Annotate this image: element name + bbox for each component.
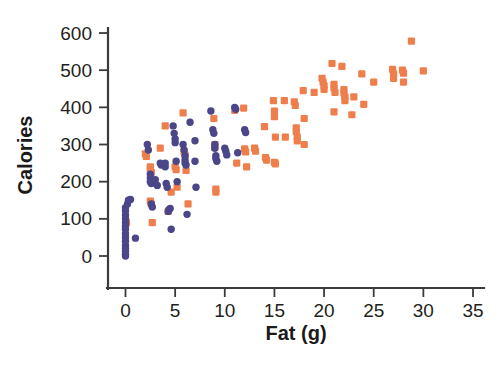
y-tick-label-200: 200: [60, 171, 92, 192]
x-tick-label-30: 30: [413, 300, 434, 321]
data-point-circle: [234, 149, 241, 156]
data-point-square: [320, 86, 327, 93]
data-point-square: [179, 109, 186, 116]
data-point-circle: [191, 158, 198, 165]
data-point-circle: [166, 205, 173, 212]
data-point-square: [281, 97, 288, 104]
data-point-circle: [154, 182, 161, 189]
x-tick-label-35: 35: [462, 300, 483, 321]
data-point-circle: [172, 158, 179, 165]
data-point-circle: [192, 184, 199, 191]
data-point-square: [212, 188, 219, 195]
data-point-square: [328, 60, 335, 67]
x-tick-label-10: 10: [214, 300, 235, 321]
data-point-square: [272, 133, 279, 140]
data-point-square: [370, 78, 377, 85]
data-point-circle: [132, 234, 139, 241]
data-point-square: [408, 38, 415, 45]
data-point-square: [184, 200, 191, 207]
data-point-circle: [127, 196, 134, 203]
y-tick-label-500: 500: [60, 60, 92, 81]
x-tick-label-0: 0: [120, 300, 131, 321]
data-point-square: [301, 141, 308, 148]
data-point-square: [341, 97, 348, 104]
y-tick-label-400: 400: [60, 97, 92, 118]
x-tick-label-15: 15: [264, 300, 285, 321]
data-point-square: [157, 145, 164, 152]
data-point-circle: [210, 130, 217, 137]
data-point-circle: [182, 161, 189, 168]
x-axis-title: Fat (g): [265, 322, 326, 344]
data-point-circle: [207, 107, 214, 114]
data-point-square: [300, 87, 307, 94]
data-point-square: [242, 148, 249, 155]
data-point-square: [270, 97, 277, 104]
data-point-square: [210, 115, 217, 122]
data-point-square: [149, 219, 156, 226]
data-point-square: [390, 75, 397, 82]
data-point-square: [360, 101, 367, 108]
y-axis-title: Calories: [14, 116, 36, 195]
data-point-square: [311, 89, 318, 96]
data-point-square: [143, 153, 150, 160]
data-point-square: [400, 78, 407, 85]
data-point-square: [331, 89, 338, 96]
data-point-circle: [213, 158, 220, 165]
data-point-square: [294, 137, 301, 144]
data-point-circle: [232, 105, 239, 112]
data-point-circle: [162, 163, 169, 170]
data-point-circle: [211, 145, 218, 152]
x-tick-label-20: 20: [314, 300, 335, 321]
data-point-circle: [171, 139, 178, 146]
data-point-circle: [242, 129, 249, 136]
y-tick-label-300: 300: [60, 134, 92, 155]
data-point-square: [330, 108, 337, 115]
data-point-square: [271, 113, 278, 120]
data-point-square: [261, 123, 268, 130]
data-point-square: [282, 133, 289, 140]
data-point-square: [272, 160, 279, 167]
data-point-circle: [169, 122, 176, 129]
data-point-square: [263, 157, 270, 164]
data-point-square: [301, 115, 308, 122]
data-point-circle: [147, 171, 154, 178]
x-tick-label-25: 25: [363, 300, 384, 321]
data-point-square: [240, 104, 247, 111]
data-point-square: [292, 102, 299, 109]
data-point-circle: [167, 226, 174, 233]
data-point-circle: [145, 146, 152, 153]
x-tick-label-5: 5: [170, 300, 181, 321]
y-tick-label-100: 100: [60, 208, 92, 229]
data-point-circle: [223, 151, 230, 158]
data-point-circle: [173, 178, 180, 185]
data-point-square: [350, 93, 357, 100]
data-point-square: [400, 70, 407, 77]
y-tick-label-600: 600: [60, 23, 92, 44]
data-point-circle: [164, 184, 171, 191]
scatter-plot-figure: 0100200300400500600 05101520253035 Fat (…: [0, 0, 502, 365]
data-point-circle: [186, 119, 193, 126]
data-point-square: [420, 67, 427, 74]
data-point-circle: [183, 211, 190, 218]
data-point-circle: [191, 137, 198, 144]
data-point-square: [348, 111, 355, 118]
plot-canvas: 0100200300400500600 05101520253035 Fat (…: [0, 0, 502, 365]
data-point-square: [243, 163, 250, 170]
data-point-square: [233, 159, 240, 166]
data-point-square: [358, 70, 365, 77]
y-tick-label-0: 0: [81, 246, 92, 267]
data-point-square: [252, 148, 259, 155]
data-point-circle: [149, 203, 156, 210]
data-point-square: [162, 122, 169, 129]
data-point-square: [173, 166, 180, 173]
data-point-square: [338, 63, 345, 70]
